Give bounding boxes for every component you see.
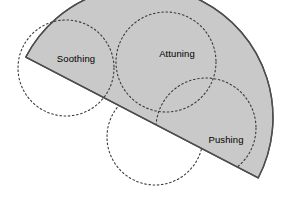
diagram-canvas: Soothing Attuning Pushing [0, 0, 287, 198]
label-attuning: Attuning [159, 48, 195, 59]
label-pushing: Pushing [208, 134, 243, 145]
label-soothing: Soothing [57, 53, 95, 64]
venn-semicircle-diagram: Soothing Attuning Pushing [0, 0, 287, 198]
